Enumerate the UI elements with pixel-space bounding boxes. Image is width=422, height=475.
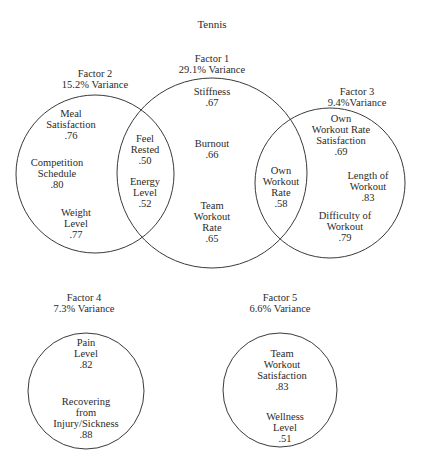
item-loading: .51 [266, 433, 304, 444]
item-team-workout-rate: Team Workout Rate .65 [194, 200, 230, 244]
factor-1-name: Factor 1 [179, 53, 245, 64]
item-label: Workout [319, 221, 372, 232]
item-label: Length of [347, 170, 388, 181]
diagram-title: Tennis [197, 19, 226, 30]
item-label: Own [263, 165, 299, 176]
item-label: Level [130, 187, 160, 198]
item-label: Satisfaction [312, 135, 370, 146]
item-label: Satisfaction [257, 370, 307, 381]
item-own-workout-rate: Own Workout Rate .58 [263, 165, 299, 209]
item-label: Workout Rate [312, 124, 370, 135]
item-wellness-level: Wellness Level .51 [266, 411, 304, 444]
factor-5-name: Factor 5 [249, 292, 310, 303]
item-label: Level [74, 348, 98, 359]
factor-1-variance: 29.1% Variance [179, 64, 245, 75]
item-label: Level [266, 422, 304, 433]
item-label: Burnout [195, 138, 229, 149]
item-loading: .50 [131, 155, 160, 166]
item-loading: .79 [319, 232, 372, 243]
item-label: Workout [263, 176, 299, 187]
item-loading: .66 [195, 149, 229, 160]
item-feel-rested: Feel Rested .50 [131, 133, 160, 166]
item-loading: .88 [53, 429, 118, 440]
item-recovering-from-injury: Recovering from Injury/Sickness .88 [53, 396, 118, 440]
item-label: Difficulty of [319, 210, 372, 221]
item-loading: .65 [194, 233, 230, 244]
item-loading: .76 [46, 130, 96, 141]
item-label: Stiffness [194, 86, 231, 97]
item-weight-level: Weight Level .77 [61, 207, 91, 240]
item-meal-satisfaction: Meal Satisfaction .76 [46, 108, 96, 141]
item-label: Meal [46, 108, 96, 119]
factor-2-name: Factor 2 [62, 68, 128, 79]
item-own-workout-rate-satisfaction: Own Workout Rate Satisfaction .69 [312, 113, 370, 157]
item-label: Level [61, 218, 91, 229]
item-loading: .69 [312, 146, 370, 157]
item-difficulty-of-workout: Difficulty of Workout .79 [319, 210, 372, 243]
item-loading: .80 [31, 179, 84, 190]
item-label: Satisfaction [46, 119, 96, 130]
item-length-of-workout: Length of Workout .83 [347, 170, 388, 203]
item-stiffness: Stiffness .67 [194, 86, 231, 108]
item-label: Team [194, 200, 230, 211]
factor-2-header: Factor 2 15.2% Variance [62, 68, 128, 90]
item-loading: .83 [257, 381, 307, 392]
item-burnout: Burnout .66 [195, 138, 229, 160]
item-loading: .52 [130, 198, 160, 209]
item-loading: .67 [194, 97, 231, 108]
item-label: Feel [131, 133, 160, 144]
factor-3-variance: 9.4%Variance [328, 97, 387, 108]
item-loading: .77 [61, 229, 91, 240]
factor-4-name: Factor 4 [53, 292, 114, 303]
item-label: Workout [194, 211, 230, 222]
factor-5-header: Factor 5 6.6% Variance [249, 292, 310, 314]
item-loading: .83 [347, 192, 388, 203]
factor-3-header: Factor 3 9.4%Variance [328, 86, 387, 108]
item-label: Weight [61, 207, 91, 218]
item-loading: .82 [74, 359, 98, 370]
item-label: Workout [347, 181, 388, 192]
title-text: Tennis [197, 19, 226, 30]
item-loading: .58 [263, 198, 299, 209]
item-label: Own [312, 113, 370, 124]
factor-4-variance: 7.3% Variance [53, 303, 114, 314]
item-pain-level: Pain Level .82 [74, 337, 98, 370]
item-label: Schedule [31, 168, 84, 179]
item-team-workout-satisfaction: Team Workout Satisfaction .83 [257, 348, 307, 392]
item-label: Wellness [266, 411, 304, 422]
item-label: Injury/Sickness [53, 418, 118, 429]
factor-4-header: Factor 4 7.3% Variance [53, 292, 114, 314]
item-label: Recovering [53, 396, 118, 407]
item-label: Rate [194, 222, 230, 233]
factor-2-variance: 15.2% Variance [62, 79, 128, 90]
item-energy-level: Energy Level .52 [130, 176, 160, 209]
factor-5-variance: 6.6% Variance [249, 303, 310, 314]
item-label: Pain [74, 337, 98, 348]
item-label: Team [257, 348, 307, 359]
item-label: Competition [31, 157, 84, 168]
item-label: Rested [131, 144, 160, 155]
factor-3-name: Factor 3 [328, 86, 387, 97]
item-label: from [53, 407, 118, 418]
item-label: Workout [257, 359, 307, 370]
factor-1-header: Factor 1 29.1% Variance [179, 53, 245, 75]
item-competition-schedule: Competition Schedule .80 [31, 157, 84, 190]
item-label: Rate [263, 187, 299, 198]
item-label: Energy [130, 176, 160, 187]
